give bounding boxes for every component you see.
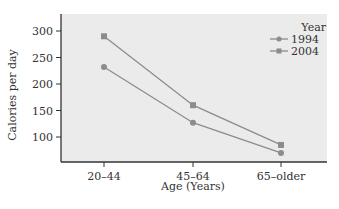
x-tick-label: 20–44 [87,170,121,183]
data-point-circle [190,120,196,126]
x-axis-label: Age (Years) [160,180,225,193]
x-tick-label: 65–older [257,170,306,183]
data-point-square [101,33,107,39]
y-tick-label: 150 [32,105,53,118]
y-tick-label: 250 [32,52,53,65]
data-point-circle [278,150,284,156]
data-point-square [278,142,284,148]
y-tick-label: 300 [32,25,53,38]
y-axis: 100150200250300 [32,14,61,162]
data-point-circle [101,64,107,70]
y-tick-label: 100 [32,131,53,144]
line-chart: 100150200250300 20–4445–6465–older Year1… [0,0,339,209]
legend-circle-icon [277,37,282,42]
plot-area [61,14,327,162]
y-axis-label: Calories per day [6,48,19,140]
legend-entry-2004: 2004 [291,45,319,58]
data-point-square [190,102,196,108]
y-tick-label: 200 [32,78,53,91]
legend-square-icon [277,49,282,54]
